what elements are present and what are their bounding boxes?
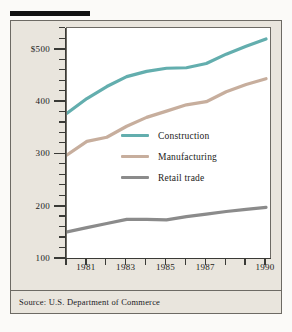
x-tick — [85, 259, 86, 265]
y-tick-major — [54, 205, 65, 207]
y-tick-minor — [59, 226, 65, 227]
legend-item: Retail trade — [121, 167, 249, 188]
y-tick-minor — [59, 80, 65, 81]
y-tick-minor — [59, 90, 65, 91]
legend-swatch — [121, 134, 149, 138]
x-tick — [205, 259, 206, 265]
y-tick-minor — [59, 27, 65, 28]
x-tick — [225, 259, 226, 265]
x-tick — [105, 259, 106, 265]
y-tick-minor — [59, 132, 65, 133]
legend-item: Manufacturing — [121, 146, 249, 167]
y-tick-minor — [59, 184, 65, 185]
x-axis-spine — [65, 258, 271, 259]
y-tick-major — [54, 48, 65, 50]
x-tick — [65, 259, 66, 265]
x-tick — [185, 259, 186, 265]
x-tick — [264, 259, 265, 265]
x-tick — [244, 259, 245, 265]
x-axis-labels: 19811983198519871990 — [66, 262, 271, 278]
series-line-retail-trade — [67, 207, 266, 232]
y-axis-spine — [65, 28, 66, 258]
source-row: Source: U.S. Department of Commerce — [11, 291, 281, 313]
legend-swatch — [121, 155, 149, 159]
y-tick-label: 200 — [36, 201, 50, 211]
legend-label: Manufacturing — [158, 152, 217, 162]
figure-frame: $500400300200100 19811983198519871990 Co… — [10, 20, 282, 314]
y-tick-minor — [59, 247, 65, 248]
y-tick-minor — [59, 215, 65, 216]
source-note: Source: U.S. Department of Commerce — [11, 297, 160, 307]
legend-item: Construction — [121, 125, 249, 146]
x-tick — [145, 259, 146, 265]
legend-label: Construction — [158, 131, 209, 141]
y-tick-minor — [59, 174, 65, 175]
y-tick-minor — [59, 121, 65, 122]
legend-label: Retail trade — [158, 173, 204, 183]
y-tick-minor — [59, 69, 65, 70]
chart-body: $500400300200100 19811983198519871990 Co… — [11, 21, 281, 290]
top-rule-bar — [10, 11, 90, 16]
y-axis-labels: $500400300200100 — [11, 27, 59, 259]
legend-swatch — [121, 176, 149, 180]
y-tick-minor — [59, 111, 65, 112]
x-tick — [165, 259, 166, 265]
y-tick-minor — [59, 38, 65, 39]
y-tick-minor — [59, 163, 65, 164]
y-tick-label: $500 — [31, 44, 50, 54]
chart-legend: ConstructionManufacturingRetail trade — [121, 125, 249, 188]
y-tick-minor — [59, 195, 65, 196]
y-tick-label: 300 — [36, 148, 50, 158]
y-tick-label: 100 — [36, 253, 50, 263]
y-tick-major — [54, 257, 65, 259]
x-tick — [125, 259, 126, 265]
y-tick-minor — [59, 236, 65, 237]
y-tick-label: 400 — [36, 96, 50, 106]
series-line-construction — [67, 39, 266, 113]
y-tick-major — [54, 100, 65, 102]
y-tick-minor — [59, 59, 65, 60]
chart-figure: $500400300200100 19811983198519871990 Co… — [0, 0, 292, 332]
y-tick-minor — [59, 142, 65, 143]
y-tick-major — [54, 153, 65, 155]
